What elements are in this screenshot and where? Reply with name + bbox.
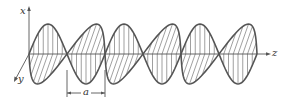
b-field-hatch: [31, 54, 38, 75]
b-field-hatch: [167, 26, 177, 54]
b-field-lobe-outline: [67, 24, 105, 54]
dimension-arrow-left-icon: [67, 92, 71, 95]
b-field-hatch: [91, 26, 101, 54]
z-axis-label: z: [272, 48, 277, 58]
b-field-lobe-outline: [143, 24, 181, 54]
x-axis-arrow-icon: [27, 6, 31, 11]
z-axis-arrow-icon: [266, 52, 271, 56]
b-field-hatch: [243, 26, 253, 54]
b-field-hatch: [186, 54, 196, 82]
wave-diagram-canvas: [0, 0, 283, 104]
y-axis-label: y: [18, 74, 24, 84]
b-field-hatch: [34, 54, 44, 82]
b-field-hatch: [96, 33, 103, 54]
dimension-label: a: [83, 87, 89, 97]
b-field-hatch: [183, 54, 190, 75]
dimension-arrow-right-icon: [101, 92, 105, 95]
x-axis-label: x: [20, 6, 26, 16]
b-field-lobe-outline: [219, 24, 257, 54]
b-field-lobe-outline: [181, 54, 219, 84]
b-field-hatch: [172, 33, 179, 54]
b-field-lobe-outline: [105, 54, 143, 84]
b-field-hatch: [107, 54, 114, 75]
b-field-hatch: [248, 33, 255, 54]
b-field-hatch: [110, 54, 120, 82]
b-field-lobe-outline: [29, 54, 67, 84]
